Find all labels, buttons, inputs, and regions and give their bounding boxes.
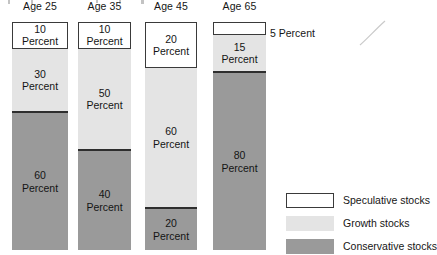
legend-swatch-speculative bbox=[286, 193, 334, 208]
segment-unit: Percent bbox=[153, 138, 189, 150]
bar-segment-conservative: 40 Percent bbox=[78, 149, 131, 250]
segment-unit: Percent bbox=[221, 162, 257, 174]
bar-column-age-25: Age 25 10 Percent 30 Percent 60 Percent bbox=[12, 0, 68, 255]
column-title: Age 45 bbox=[154, 0, 188, 12]
bar-segment-speculative: 10 Percent bbox=[78, 22, 131, 49]
segment-value: 60 bbox=[165, 125, 177, 137]
bar-segment-speculative bbox=[213, 22, 266, 35]
legend-item-growth: Growth stocks bbox=[286, 215, 422, 235]
stacked-bar: 15 Percent 80 Percent bbox=[213, 22, 266, 250]
segment-value: 10 bbox=[34, 24, 46, 36]
segment-value: 20 bbox=[165, 217, 177, 229]
column-title: Age 25 bbox=[23, 0, 57, 12]
segment-unit: Percent bbox=[22, 80, 58, 92]
legend-swatch-growth bbox=[286, 216, 334, 231]
segment-value: 15 bbox=[234, 41, 246, 53]
bar-column-age-35: Age 35 10 Percent 50 Percent 40 Percent bbox=[78, 0, 131, 255]
segment-value: 50 bbox=[99, 87, 111, 99]
column-title: Age 35 bbox=[88, 0, 122, 12]
segment-unit: Percent bbox=[153, 230, 189, 242]
legend-item-conservative: Conservative stocks bbox=[286, 238, 422, 255]
legend-label: Growth stocks bbox=[343, 217, 410, 229]
bar-segment-speculative: 10 Percent bbox=[12, 22, 68, 49]
segment-value: 20 bbox=[165, 33, 177, 45]
bar-segment-growth: 50 Percent bbox=[78, 49, 131, 149]
segment-value: 40 bbox=[99, 188, 111, 200]
segment-callout-label: 5 Percent bbox=[270, 27, 315, 39]
bar-column-age-65: Age 65 15 Percent 80 Percent bbox=[213, 0, 266, 255]
stacked-bar: 20 Percent 60 Percent 20 Percent bbox=[145, 22, 197, 250]
legend-label: Conservative stocks bbox=[343, 240, 437, 252]
stacked-bar: 10 Percent 50 Percent 40 Percent bbox=[78, 22, 131, 250]
bar-column-age-45: Age 45 20 Percent 60 Percent 20 Percent bbox=[145, 0, 197, 255]
segment-unit: Percent bbox=[22, 36, 58, 48]
segment-unit: Percent bbox=[86, 99, 122, 111]
bar-segment-growth: 60 Percent bbox=[145, 68, 197, 207]
scan-artifact-descender bbox=[141, 0, 144, 4]
legend-label: Speculative stocks bbox=[343, 194, 430, 206]
segment-value: 60 bbox=[34, 169, 46, 181]
legend-item-speculative: Speculative stocks bbox=[286, 192, 422, 212]
column-title: Age 65 bbox=[223, 0, 257, 12]
segment-unit: Percent bbox=[86, 36, 122, 48]
legend-swatch-conservative bbox=[286, 239, 334, 254]
stacked-bar: 10 Percent 30 Percent 60 Percent bbox=[12, 22, 68, 250]
segment-unit: Percent bbox=[22, 182, 58, 194]
bar-segment-growth: 15 Percent bbox=[213, 35, 266, 71]
bar-segment-conservative: 80 Percent bbox=[213, 71, 266, 250]
scan-artifact-descender bbox=[8, 0, 10, 4]
bar-segment-speculative: 20 Percent bbox=[145, 22, 197, 68]
segment-value: 10 bbox=[99, 24, 111, 36]
bar-segment-growth: 30 Percent bbox=[12, 49, 68, 111]
segment-unit: Percent bbox=[153, 45, 189, 57]
bar-segment-conservative: 20 Percent bbox=[145, 207, 197, 250]
bar-segment-conservative: 60 Percent bbox=[12, 111, 68, 250]
scan-artifact-swoosh-icon bbox=[358, 20, 388, 46]
segment-unit: Percent bbox=[86, 201, 122, 213]
legend: Speculative stocks Growth stocks Conserv… bbox=[286, 192, 422, 255]
segment-unit: Percent bbox=[221, 53, 257, 65]
segment-value: 30 bbox=[34, 68, 46, 80]
segment-value: 80 bbox=[234, 149, 246, 161]
